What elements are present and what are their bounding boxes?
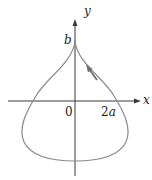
x-axis-label: x	[143, 93, 150, 107]
x-axis-arrowhead-icon	[134, 99, 141, 104]
origin-label: 0	[65, 105, 73, 119]
x-tick-var: a	[109, 105, 116, 119]
y-axis-label: y	[83, 4, 91, 18]
x-tick-label-2a: 2a	[101, 105, 116, 119]
x-tick-coef: 2	[101, 105, 109, 119]
y-axis-arrowhead-icon	[73, 19, 78, 26]
y-tick-label-b: b	[64, 33, 72, 47]
teardrop-curve-diagram: y x b 0 2a	[0, 0, 152, 180]
